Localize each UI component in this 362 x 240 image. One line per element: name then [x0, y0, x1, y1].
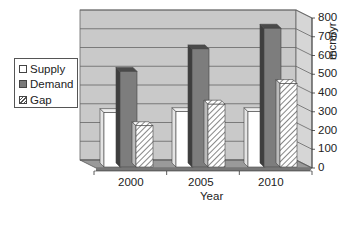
- legend-label: Demand: [30, 78, 73, 90]
- y-tick-label: 400: [318, 86, 337, 98]
- x-tick-label: 2005: [188, 176, 214, 188]
- legend-label: Supply: [30, 63, 65, 75]
- gap-swatch-icon: [19, 96, 27, 104]
- legend-item-gap: Gap: [19, 92, 77, 108]
- chart-legend: Supply Demand Gap: [14, 58, 78, 108]
- legend-item-demand: Demand: [19, 77, 77, 93]
- y-tick-label: 300: [318, 105, 337, 117]
- y-tick-label: 100: [318, 142, 337, 154]
- y-tick-label: 0: [318, 161, 324, 173]
- x-axis-title: Year: [200, 190, 223, 202]
- supply-swatch-icon: [19, 65, 27, 73]
- y-axis-title: mcm/yr: [326, 22, 338, 60]
- legend-label: Gap: [30, 94, 52, 106]
- legend-item-supply: Supply: [19, 61, 77, 77]
- y-tick-label: 500: [318, 67, 337, 79]
- x-tick-label: 2000: [118, 176, 144, 188]
- y-tick-label: 200: [318, 124, 337, 136]
- x-tick-label: 2010: [258, 176, 284, 188]
- demand-swatch-icon: [19, 80, 27, 88]
